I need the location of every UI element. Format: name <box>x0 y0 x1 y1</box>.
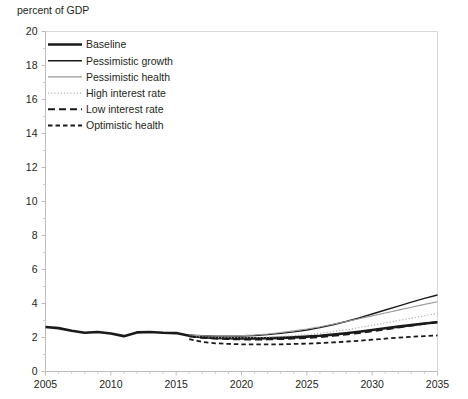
y-tick-label: 6 <box>32 263 38 275</box>
y-tick-label: 4 <box>32 297 38 309</box>
y-tick-label: 16 <box>26 93 38 105</box>
y-tick-label: 14 <box>26 127 38 139</box>
y-tick-label: 2 <box>32 331 38 343</box>
y-tick-label: 0 <box>32 365 38 377</box>
gdp-projection-chart: percent of GDP 02468101214161820 2005201… <box>0 0 468 399</box>
x-tick-label: 2020 <box>230 378 254 390</box>
legend-label: Pessimistic growth <box>86 55 173 67</box>
legend-label: Low interest rate <box>86 103 164 115</box>
chart-title: percent of GDP <box>17 4 89 16</box>
x-tick-label: 2025 <box>295 378 319 390</box>
x-tick-label: 2005 <box>34 378 58 390</box>
y-tick-label: 12 <box>26 161 38 173</box>
legend-label: High interest rate <box>86 87 166 99</box>
x-tick-label: 2035 <box>426 378 450 390</box>
y-tick-label: 8 <box>32 229 38 241</box>
legend-label: Baseline <box>86 38 126 50</box>
legend-label: Optimistic health <box>86 119 164 131</box>
x-tick-label: 2030 <box>360 378 384 390</box>
y-tick-label: 20 <box>26 25 38 37</box>
x-tick-label: 2015 <box>164 378 188 390</box>
y-tick-label: 10 <box>26 195 38 207</box>
x-tick-label: 2010 <box>99 378 123 390</box>
legend-label: Pessimistic health <box>86 71 170 83</box>
y-tick-label: 18 <box>26 59 38 71</box>
